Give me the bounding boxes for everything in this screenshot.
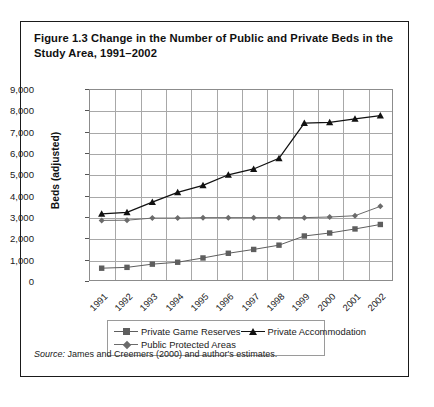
data-point-marker <box>200 255 205 260</box>
legend-label: Public Protected Areas <box>141 340 236 349</box>
data-point-marker <box>352 226 357 231</box>
y-axis-tick-label: 2,000 <box>0 233 34 244</box>
legend-marker-diamond-icon <box>114 340 138 350</box>
data-point-marker <box>276 242 281 247</box>
x-axis-tick-label: 1997 <box>234 291 261 318</box>
series-private-game-reserves <box>99 222 383 271</box>
x-axis-tick-label: 1998 <box>260 291 287 318</box>
data-point-marker <box>200 215 206 221</box>
y-axis-tick-label: 0 <box>0 276 34 287</box>
y-axis-tick-label: 6,000 <box>0 148 34 159</box>
legend-item-private-game-reserves[interactable]: Private Game Reserves <box>114 325 241 338</box>
y-axis-tick-label: 4,000 <box>0 190 34 201</box>
source-text: James and Creemers (2000) and author's e… <box>65 349 277 359</box>
legend-row-top: Private Game Reserves Private Accommodat… <box>114 325 318 338</box>
x-axis-tick-label: 2002 <box>361 291 388 318</box>
x-axis-tick-label: 1994 <box>158 291 185 318</box>
y-axis-tick-mark <box>85 281 89 282</box>
data-point-marker <box>124 217 130 223</box>
y-axis-tick-label: 9,000 <box>0 84 34 95</box>
data-point-marker <box>124 265 129 270</box>
data-point-marker <box>378 222 383 227</box>
y-axis-tick-label: 1,000 <box>0 254 34 265</box>
data-point-marker <box>175 215 181 221</box>
legend-item-private-accommodation[interactable]: Private Accommodation <box>241 325 366 338</box>
figure-title: Figure 1.3 Change in the Number of Publi… <box>34 31 396 62</box>
data-point-marker <box>225 215 231 221</box>
legend-label: Private Game Reserves <box>141 327 241 336</box>
data-point-marker <box>175 260 180 265</box>
x-axis-tick-label: 2000 <box>310 291 337 318</box>
data-point-marker <box>301 215 307 221</box>
x-axis-tick-label: 1999 <box>285 291 312 318</box>
data-point-marker <box>251 215 257 221</box>
y-axis-tick-label: 5,000 <box>0 169 34 180</box>
y-axis-tick-label: 3,000 <box>0 212 34 223</box>
data-point-marker <box>377 112 384 118</box>
legend-marker-triangle-icon <box>241 327 265 337</box>
data-point-marker <box>226 251 231 256</box>
y-axis-tick-label: 8,000 <box>0 105 34 116</box>
series-lines-and-markers <box>89 89 393 281</box>
data-point-marker <box>99 217 105 223</box>
x-axis-tick-label: 1993 <box>133 291 160 318</box>
x-axis-tick-label: 1992 <box>108 291 135 318</box>
y-axis-title: Beds (adjusted) <box>50 132 61 209</box>
data-point-marker <box>352 213 358 219</box>
x-axis-tick-label: 1995 <box>184 291 211 318</box>
series-private-accommodation <box>98 112 384 217</box>
source-prefix: Source: <box>34 349 65 359</box>
legend-marker-square-icon <box>114 327 138 337</box>
data-point-marker <box>327 214 333 220</box>
data-point-marker <box>99 266 104 271</box>
chart-plot-region: Beds (adjusted) 01,0002,0003,0004,0005,0… <box>21 72 410 317</box>
x-axis-tick-label: 2001 <box>336 291 363 318</box>
data-point-marker <box>302 233 307 238</box>
y-axis-tick-label: 7,000 <box>0 126 34 137</box>
data-point-marker <box>276 215 282 221</box>
figure-source-note: Source: James and Creemers (2000) and au… <box>34 349 277 359</box>
x-axis-tick-label: 1991 <box>82 291 109 318</box>
data-point-marker <box>251 247 256 252</box>
data-point-marker <box>327 230 332 235</box>
figure-container: Figure 1.3 Change in the Number of Publi… <box>20 21 409 377</box>
legend-label: Private Accommodation <box>268 327 366 336</box>
data-point-marker <box>149 215 155 221</box>
data-point-marker <box>377 203 383 209</box>
data-point-marker <box>150 261 155 266</box>
x-axis-tick-label: 1996 <box>209 291 236 318</box>
